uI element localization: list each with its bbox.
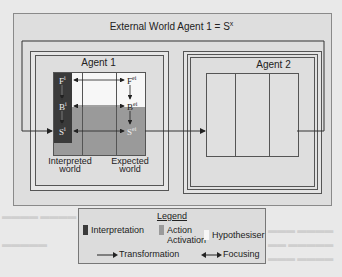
arrows-overlay <box>0 0 342 277</box>
diagram-title: External World Agent 1 = Sx <box>13 20 330 32</box>
cell-sup: ei <box>132 126 136 132</box>
cell-Sei: Sei <box>127 126 136 137</box>
cell-sup: ei <box>132 75 136 81</box>
title-superscript: x <box>230 20 234 27</box>
agent2-label: Agent 2 <box>190 59 342 70</box>
agent1-label: Agent 1 <box>35 57 162 68</box>
feedback-loop-arrow <box>22 41 324 131</box>
cell-Si: Si <box>59 126 66 137</box>
title-text: External World Agent 1 = S <box>110 21 230 32</box>
cell-Bei: Bei <box>127 101 137 112</box>
label-line2: world <box>40 165 100 173</box>
cell-Bi: Bi <box>59 101 67 112</box>
interpreted-world-label: Interpreted world <box>40 157 100 173</box>
label-line2: world <box>104 165 156 173</box>
expected-world-label: Expected world <box>104 157 156 173</box>
cell-Fei: Fei <box>127 75 136 86</box>
cell-sup: ei <box>133 101 137 107</box>
cell-sup: i <box>65 101 67 107</box>
cell-Fi: Fi <box>59 75 66 86</box>
cell-sup: i <box>64 126 66 132</box>
cell-sup: i <box>64 75 66 81</box>
